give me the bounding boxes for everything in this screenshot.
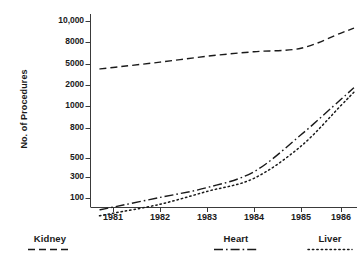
x-axis-tick-label: 1982 xyxy=(137,212,183,222)
legend-item-heart[interactable]: Heart xyxy=(213,233,259,251)
chart-container: No. of Procedures 10,0008000500020001000… xyxy=(0,0,363,259)
data-line-heart xyxy=(100,88,355,210)
data-line-kidney xyxy=(100,28,355,69)
data-series-group xyxy=(100,28,355,216)
x-axis-tick-label: 1986 xyxy=(318,212,363,222)
axis-lines xyxy=(91,14,358,208)
x-axis-tick-label: 1983 xyxy=(184,212,230,222)
legend-label: Kidney xyxy=(27,233,73,244)
legend-line-swatch xyxy=(213,248,259,251)
legend-label: Heart xyxy=(213,233,259,244)
legend-line-swatch xyxy=(307,248,353,251)
y-axis-ticks xyxy=(86,22,91,199)
x-axis-tick-label: 1984 xyxy=(231,212,277,222)
legend-item-kidney[interactable]: Kidney xyxy=(27,233,73,251)
legend-item-liver[interactable]: Liver xyxy=(307,233,353,251)
legend-line-swatch xyxy=(27,248,73,251)
legend-label: Liver xyxy=(307,233,353,244)
data-line-liver xyxy=(100,92,355,216)
x-axis-tick-label: 1981 xyxy=(90,212,136,222)
